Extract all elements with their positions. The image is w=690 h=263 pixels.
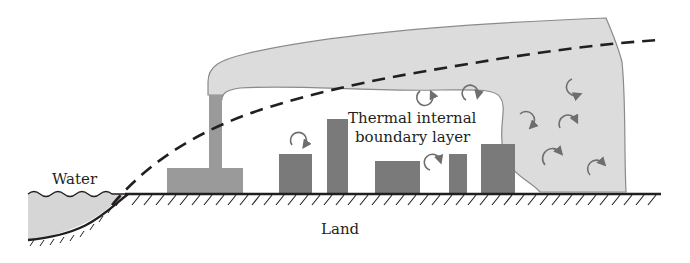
building-3: [375, 161, 420, 194]
water-label: Water: [52, 170, 98, 188]
eddy-arrow-icon: [424, 154, 440, 170]
eddy-arrow-icon: [291, 132, 307, 145]
building-5: [481, 144, 515, 194]
chimney: [209, 95, 222, 169]
building-1: [279, 154, 312, 194]
power-plant-base: [167, 168, 243, 194]
fumigation-diagram: Water Land Thermal internal boundary lay…: [0, 0, 690, 263]
water-body: [28, 192, 125, 241]
building-2: [327, 119, 348, 194]
building-4: [449, 154, 467, 194]
land-hatching: [132, 195, 656, 205]
land-label: Land: [321, 220, 360, 238]
eddy-arrow-icon: [417, 91, 433, 105]
tibl-label-line1: Thermal internal: [348, 109, 477, 127]
tibl-label-line2: boundary layer: [355, 128, 471, 146]
